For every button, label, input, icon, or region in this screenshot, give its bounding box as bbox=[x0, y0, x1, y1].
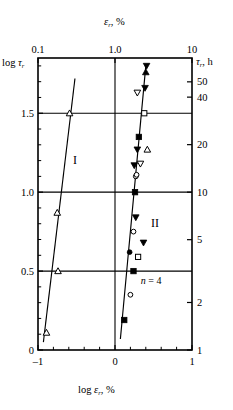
marker-filled-triangle-down bbox=[142, 85, 149, 91]
left-tick-label: 0.5 bbox=[21, 266, 34, 277]
marker-filled-square bbox=[132, 189, 137, 194]
fit-line-branch-II bbox=[120, 66, 145, 339]
marker-open-circle bbox=[128, 292, 133, 297]
left-tick-label: 0 bbox=[29, 345, 34, 356]
marker-filled-triangle-down bbox=[132, 215, 139, 221]
annotations-group: IIIn = 4 bbox=[73, 153, 162, 286]
right-tick-label: 50 bbox=[197, 76, 208, 87]
right-tick-label: 1 bbox=[197, 345, 202, 356]
right-tick-label: 10 bbox=[197, 187, 208, 198]
fit-lines-group bbox=[43, 66, 145, 342]
top-tick-label: 0.1 bbox=[31, 44, 44, 55]
marker-open-triangle-down bbox=[134, 90, 141, 96]
bottom-tick-label: 0 bbox=[112, 356, 117, 367]
region-one-label: I bbox=[73, 153, 77, 167]
left-tick-label: 1.0 bbox=[21, 187, 34, 198]
marker-open-triangle-up bbox=[144, 146, 151, 152]
slope-exponent-label: n = 4 bbox=[141, 275, 162, 286]
marker-open-circle bbox=[131, 229, 136, 234]
marker-open-square bbox=[136, 254, 141, 259]
marker-filled-triangle-down bbox=[134, 147, 141, 153]
marker-filled-triangle-down bbox=[143, 63, 150, 69]
data-points-group bbox=[43, 63, 150, 335]
tick-labels-group: –1010.11.01000.51.01.512510204050 bbox=[21, 44, 208, 367]
top-tick-label: 1.0 bbox=[108, 44, 121, 55]
marker-open-square bbox=[142, 111, 147, 116]
marker-open-circle bbox=[134, 172, 139, 177]
marker-filled-triangle-up bbox=[143, 69, 150, 75]
marker-filled-triangle-down bbox=[140, 240, 147, 246]
marker-open-triangle-down bbox=[137, 161, 144, 167]
top-tick-label: 10 bbox=[187, 44, 198, 55]
marker-filled-square bbox=[131, 268, 136, 273]
left-tick-label: 1.5 bbox=[21, 108, 34, 119]
bottom-tick-label: –1 bbox=[32, 356, 44, 367]
fit-line-branch-I bbox=[43, 79, 75, 343]
right-tick-label: 2 bbox=[197, 297, 202, 308]
gridlines-group bbox=[38, 58, 192, 350]
right-tick-label: 20 bbox=[197, 139, 208, 150]
region-two-label: II bbox=[151, 216, 159, 230]
marker-filled-square bbox=[122, 317, 127, 322]
marker-filled-square bbox=[136, 134, 141, 139]
figure-container: εr, % log τr τr, h log εr, % –1010.11.01… bbox=[0, 0, 233, 410]
plot-svg: –1010.11.01000.51.01.512510204050 IIIn =… bbox=[0, 0, 233, 410]
bottom-tick-label: 1 bbox=[189, 356, 194, 367]
marker-filled-circle bbox=[127, 250, 132, 255]
right-tick-label: 40 bbox=[197, 92, 208, 103]
right-tick-label: 5 bbox=[197, 234, 202, 245]
